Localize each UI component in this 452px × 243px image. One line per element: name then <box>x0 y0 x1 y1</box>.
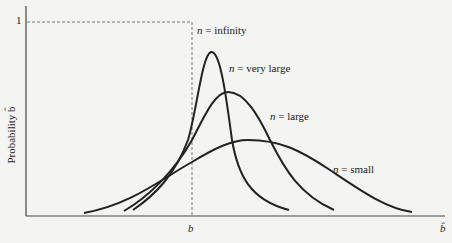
label-n-small: n = small <box>333 163 374 175</box>
x-tick-b: b <box>188 222 194 234</box>
label-n-very-large: n = very large <box>229 62 290 74</box>
chart-canvas <box>0 0 452 243</box>
y-tick-1: 1 <box>16 14 22 26</box>
label-n-large: n = large <box>270 110 309 122</box>
x-axis-label: b̂ <box>440 222 446 234</box>
y-axis-label: Probability b̂ <box>2 80 20 190</box>
label-n-infinity: n = infinity <box>197 24 247 36</box>
curve-n-small <box>84 140 412 213</box>
